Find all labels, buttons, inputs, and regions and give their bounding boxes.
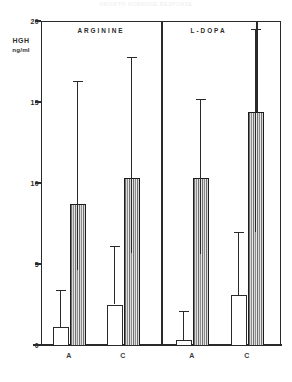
y-tick-label: 10 <box>9 180 39 187</box>
error-bar-cap <box>179 311 189 312</box>
y-tick-label: 0 <box>9 342 39 349</box>
error-bar <box>238 232 239 295</box>
error-bar <box>77 81 78 271</box>
y-axis-title-line1: HGH <box>3 36 39 45</box>
error-bar-cap <box>56 290 66 291</box>
bars-layer <box>41 21 281 345</box>
error-bar <box>131 57 132 253</box>
error-bar <box>114 246 115 304</box>
y-tick-label: 15 <box>9 99 39 106</box>
error-bar-cap <box>110 246 120 247</box>
error-bar <box>200 99 201 255</box>
error-bar-cap <box>73 81 83 82</box>
y-tick-label: 20 <box>9 18 39 25</box>
x-tick-label-1: C <box>113 352 133 359</box>
error-bar-cap <box>251 29 261 30</box>
error-bar-cap <box>196 99 206 100</box>
y-tick-label: 5 <box>9 261 39 268</box>
bar-ldopa-c-open <box>231 295 247 345</box>
y-axis-title-line2: ng/ml <box>3 45 39 54</box>
scan-title: GROWTH HORMONE RESPONSE <box>0 1 292 7</box>
bar-arginine-c-open <box>107 305 123 346</box>
error-bar-cap <box>127 57 137 58</box>
error-bar <box>183 311 184 340</box>
bar-arginine-a-open <box>53 327 69 345</box>
error-bar <box>60 290 61 327</box>
y-axis-title: HGH ng/ml <box>3 36 39 54</box>
x-tick-label-2: A <box>182 352 202 359</box>
x-tick-label-0: A <box>59 352 79 359</box>
x-tick-label-3: C <box>237 352 257 359</box>
error-bar-cap <box>234 232 244 233</box>
figure-root: GROWTH HORMONE RESPONSE HGH ng/ml 051015… <box>0 0 292 382</box>
error-bar <box>255 29 256 232</box>
bar-ldopa-a-open <box>176 340 192 345</box>
